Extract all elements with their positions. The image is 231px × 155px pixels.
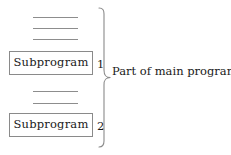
code-line xyxy=(33,103,78,104)
code-line xyxy=(33,39,78,40)
code-line xyxy=(33,28,78,29)
subprogram-box-2-label: Subprogram xyxy=(13,119,88,131)
subprogram-box-2: Subprogram xyxy=(9,113,93,137)
code-line xyxy=(33,91,78,92)
subprogram-box-1: Subprogram xyxy=(9,51,93,75)
brace-caption: Part of main program xyxy=(112,66,231,78)
subprogram-box-1-label: Subprogram xyxy=(13,57,88,69)
curly-brace xyxy=(96,6,116,153)
subprogram-structure-diagram: Subprogram 1 Subprogram 2 Part of main p… xyxy=(0,0,231,155)
code-line xyxy=(33,17,78,18)
